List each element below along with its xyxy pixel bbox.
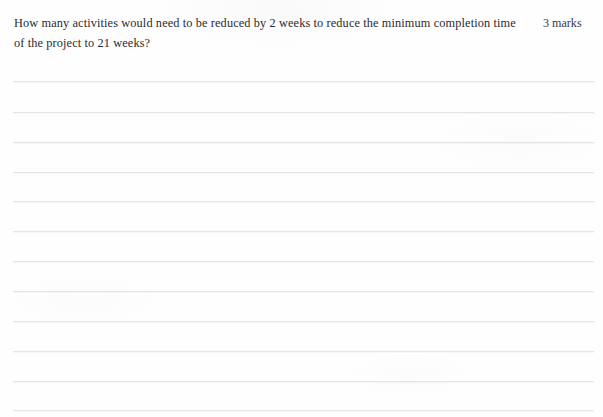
- answer-rule-line: [13, 321, 594, 322]
- answer-rule-line: [13, 381, 594, 382]
- worksheet-page: How many activities would need to be red…: [0, 0, 603, 417]
- answer-rule-line: [13, 172, 594, 173]
- answer-rule-line: [13, 112, 594, 113]
- question-text: How many activities would need to be red…: [14, 14, 526, 53]
- answer-rule-line: [13, 81, 594, 82]
- answer-rule-line: [13, 142, 594, 143]
- answer-rule-line: [13, 410, 594, 411]
- answer-rule-line: [13, 351, 594, 352]
- answer-rule-line: [13, 261, 594, 262]
- answer-rule-line: [13, 291, 594, 292]
- marks-label: 3 marks: [543, 14, 582, 34]
- answer-rule-line: [13, 231, 594, 232]
- answer-lines-area: [0, 0, 603, 417]
- answer-rule-line: [13, 201, 594, 202]
